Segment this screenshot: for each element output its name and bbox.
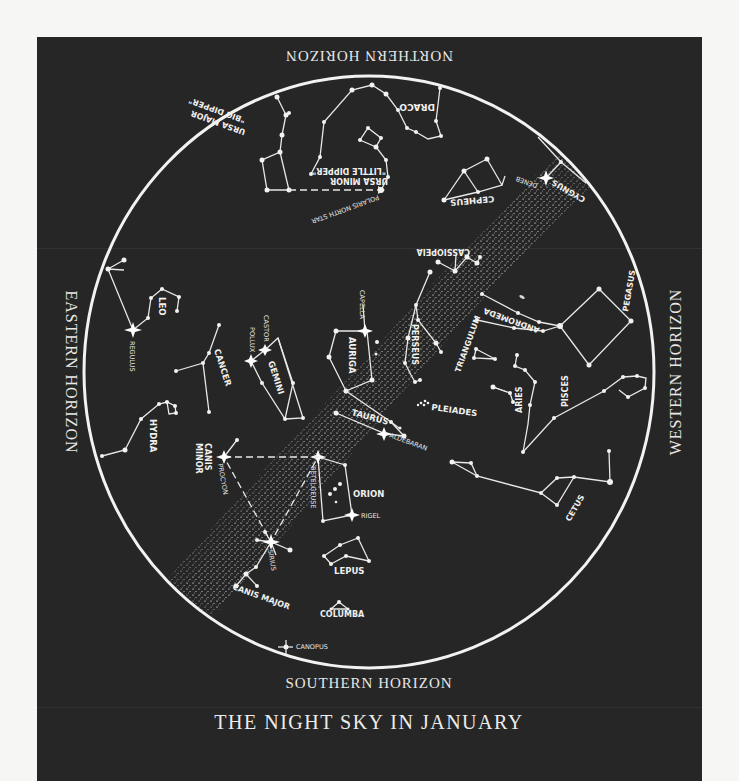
label-canis-major: CANIS MAJOR — [231, 582, 291, 611]
label-regulus: REGULUS — [128, 341, 136, 372]
constellation-ursa-major — [260, 95, 292, 193]
label-procyon: PROCYON — [216, 463, 229, 496]
label-betelgeuse: BETELGEUSE — [309, 466, 317, 508]
label-sirius: SIRIUS — [266, 549, 278, 571]
label-canis-minor-1: CANIS — [203, 443, 212, 471]
constellation-pisces — [513, 353, 647, 454]
label-ursa-minor: URSA MINOR — [330, 176, 388, 185]
label-gemini: GEMINI — [266, 360, 286, 396]
label-pegasus: PEGASUS — [621, 269, 637, 312]
m31-nebula — [519, 294, 526, 300]
label-canis-minor-2: MINOR — [194, 443, 203, 474]
label-canopus: CANOPUS — [296, 643, 328, 651]
pollux-star — [244, 354, 258, 368]
label-perseus: PERSEUS — [410, 324, 419, 365]
chart-title: THE NIGHT SKY IN JANUARY — [214, 711, 523, 734]
label-leo: LEO — [157, 297, 167, 315]
constellation-triangulum — [472, 347, 497, 361]
constellation-cancer — [174, 323, 221, 414]
constellation-canis-minor — [216, 438, 239, 464]
procyon-star — [216, 450, 232, 464]
label-hydra: HYDRA — [148, 419, 158, 453]
label-pisces: PISCES — [561, 375, 570, 407]
eastern-horizon-label: EASTERN HORIZON — [62, 291, 80, 454]
constellation-aries — [491, 385, 516, 405]
pleiades-cluster — [417, 400, 430, 407]
label-pollux: POLLUX — [248, 327, 256, 353]
label-cassiopeia: CASSIOPEIA — [416, 247, 470, 256]
constellation-lepus — [322, 536, 371, 566]
milky-way — [150, 150, 600, 630]
label-pleiades: PLEIADES — [431, 402, 478, 418]
southern-horizon-label: SOUTHERN HORIZON — [285, 675, 452, 692]
constellation-cepheus — [442, 157, 506, 203]
constellation-draco — [309, 83, 443, 177]
label-columba: COLUMBA — [320, 610, 365, 619]
label-lepus: LEPUS — [334, 566, 364, 576]
label-orion: ORION — [353, 489, 384, 499]
label-cetus: CETUS — [564, 493, 586, 523]
label-aries: ARIES — [515, 386, 524, 413]
constellation-cetus — [450, 449, 614, 507]
constellation-columba — [330, 600, 350, 611]
label-auriga: AURIGA — [347, 337, 357, 374]
label-draco: DRACO — [399, 102, 435, 112]
label-aldebaran: ALDEBARAN — [388, 431, 428, 452]
constellation-hydra — [100, 400, 178, 458]
label-cancer: CANCER — [212, 348, 234, 388]
label-castor: CASTOR — [262, 315, 270, 342]
label-capella: CAPELLA — [358, 290, 366, 319]
constellation-pegasus — [557, 287, 634, 368]
northern-horizon-label: NORTHERN HORIZON — [285, 47, 453, 64]
label-rigel: RIGEL — [361, 512, 381, 520]
capella-star — [357, 324, 373, 338]
rigel-star — [344, 508, 360, 522]
western-horizon-label: WESTERN HORIZON — [667, 289, 685, 456]
label-polaris: POLARIS NORTH STAR — [310, 193, 380, 225]
label-little-dipper: "LITTLE DIPPER" — [312, 166, 386, 175]
constellation-leo — [106, 258, 182, 339]
label-cepheus: CEPHEUS — [450, 194, 495, 208]
sky-map: URSA MAJOR "BIG DIPPER" URSA MINOR "LITT… — [0, 0, 739, 781]
